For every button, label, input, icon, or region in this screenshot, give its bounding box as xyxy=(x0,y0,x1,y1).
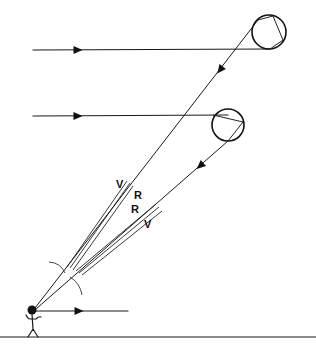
label-r-upper: R xyxy=(134,189,142,201)
spectrum-line xyxy=(73,186,133,270)
observer-body xyxy=(26,314,41,337)
angle-arcs xyxy=(49,262,82,295)
observer-head xyxy=(28,306,37,315)
label-v-lower: V xyxy=(144,218,152,230)
raindrops xyxy=(212,15,286,141)
spectrum-line xyxy=(67,181,127,267)
sun-ray-middle xyxy=(33,115,228,116)
diagram-canvas: VRRV xyxy=(0,0,316,348)
rainbow-diagram: VRRV xyxy=(0,0,316,348)
observer-figure xyxy=(26,306,41,338)
arrow-down-left-icon xyxy=(217,64,226,74)
arc-primary xyxy=(49,262,65,273)
arc-secondary xyxy=(70,277,82,295)
arrow-right-icon xyxy=(75,307,84,315)
internal-reflection-path xyxy=(258,16,283,49)
droplet-lower xyxy=(212,109,244,141)
arrow-right-icon xyxy=(73,46,82,54)
label-v-upper: V xyxy=(116,178,124,190)
droplet-upper xyxy=(252,15,286,49)
label-r-lower: R xyxy=(131,203,139,215)
arrow-right-icon xyxy=(73,112,82,120)
spectrum-line xyxy=(79,207,159,273)
secondary-band-lower xyxy=(76,204,162,275)
incoming-sun-rays xyxy=(33,46,270,315)
